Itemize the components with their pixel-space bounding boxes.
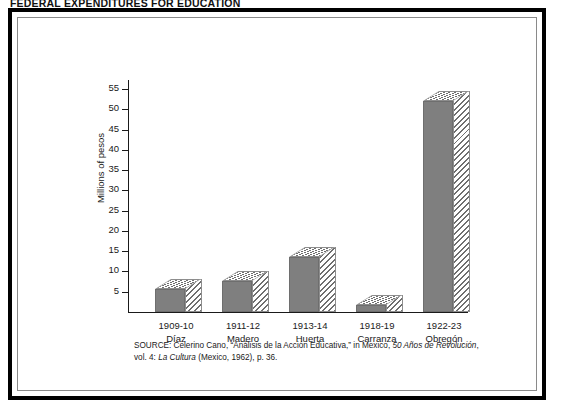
bar-side-face xyxy=(453,91,470,312)
y-tick: 25 xyxy=(122,211,128,212)
x-category-period: 1911-12 xyxy=(208,319,278,332)
y-tick: 40 xyxy=(122,150,128,151)
outer-frame: Millions of pesos 510152025303540455055 … xyxy=(8,8,546,400)
bar-front-face xyxy=(289,257,319,312)
x-category-period: 1909-10 xyxy=(141,319,211,332)
y-tick-label: 55 xyxy=(108,82,119,93)
y-tick: 45 xyxy=(122,130,128,131)
y-axis-line xyxy=(128,80,129,313)
y-tick: 35 xyxy=(122,170,128,171)
bar-front-face xyxy=(222,281,252,312)
y-tick-label: 45 xyxy=(108,123,119,134)
y-tick: 15 xyxy=(122,251,128,252)
y-tick-label: 20 xyxy=(108,224,119,235)
y-tick-label: 15 xyxy=(108,244,119,255)
source-prefix: SOURCE: Celerino Cano, “Análisis de la A… xyxy=(134,341,392,350)
x-category-period: 1913-14 xyxy=(275,319,345,332)
bar-group xyxy=(155,277,203,312)
y-tick: 55 xyxy=(122,89,128,90)
source-italic-volume: La Cultura xyxy=(158,353,196,362)
y-axis-title: Millions of pesos xyxy=(95,133,106,203)
y-tick-label: 50 xyxy=(108,102,119,113)
y-tick: 30 xyxy=(122,190,128,191)
bar-group xyxy=(222,269,270,312)
bar-front-face xyxy=(356,305,386,312)
y-tick-label: 25 xyxy=(108,204,119,215)
bar-front-face xyxy=(423,101,453,312)
y-tick: 20 xyxy=(122,231,128,232)
source-italic-title: 50 Años de Revolución xyxy=(392,341,476,350)
x-axis-line xyxy=(128,312,468,313)
x-category-period: 1922-23 xyxy=(409,319,479,332)
bar-group xyxy=(289,245,337,312)
chart-figure: Millions of pesos 510152025303540455055 … xyxy=(18,18,536,390)
bar-front-face xyxy=(155,289,185,312)
y-tick-label: 10 xyxy=(108,264,119,275)
x-category-period: 1918-19 xyxy=(342,319,412,332)
y-tick-label: 5 xyxy=(114,285,119,296)
y-tick-label: 40 xyxy=(108,143,119,154)
plot-area: 510152025303540455055 1909-10Díaz1911-12… xyxy=(128,80,468,313)
inner-frame: Millions of pesos 510152025303540455055 … xyxy=(17,17,537,391)
y-tick-label: 30 xyxy=(108,183,119,194)
source-note: SOURCE: Celerino Cano, “Análisis de la A… xyxy=(134,340,482,364)
y-tick: 50 xyxy=(122,109,128,110)
source-suffix: (Mexico, 1962), p. 36. xyxy=(196,353,277,362)
bar-group xyxy=(356,293,404,312)
y-tick-label: 35 xyxy=(108,163,119,174)
y-tick: 5 xyxy=(122,292,128,293)
bar-group xyxy=(423,89,471,312)
y-tick: 10 xyxy=(122,271,128,272)
bar-side-face xyxy=(319,247,336,312)
